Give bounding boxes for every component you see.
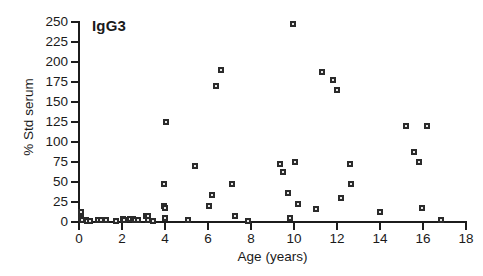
data-point xyxy=(162,215,168,221)
data-point xyxy=(218,67,224,73)
y-tick-label: 75 xyxy=(10,155,68,169)
y-tick-label-wrap: 225 xyxy=(8,35,68,49)
y-tick-label: 175 xyxy=(10,75,68,89)
data-point xyxy=(334,87,340,93)
y-tick xyxy=(71,21,78,23)
data-point xyxy=(150,218,156,224)
chart-figure: IgG3 % Std serum Age (years) 02550751001… xyxy=(0,0,483,276)
x-tick-label: 4 xyxy=(145,232,185,246)
data-point xyxy=(161,181,167,187)
data-point xyxy=(313,206,319,212)
x-tick-label: 8 xyxy=(231,232,271,246)
y-tick-label: 200 xyxy=(10,55,68,69)
data-point xyxy=(192,163,198,169)
x-tick-label: 18 xyxy=(446,232,483,246)
data-point xyxy=(113,218,119,224)
y-tick-label-wrap: 75 xyxy=(8,155,68,169)
y-tick-label-wrap: 100 xyxy=(8,135,68,149)
data-point xyxy=(338,195,344,201)
data-point xyxy=(348,181,354,187)
data-point xyxy=(438,217,444,223)
y-tick xyxy=(71,201,78,203)
y-tick xyxy=(71,41,78,43)
y-tick xyxy=(71,81,78,83)
x-tick xyxy=(78,223,80,230)
y-tick-label-wrap: 0 xyxy=(8,215,68,229)
x-tick xyxy=(164,223,166,230)
data-point xyxy=(285,190,291,196)
data-point xyxy=(78,209,84,215)
x-tick xyxy=(465,223,467,230)
data-point xyxy=(290,21,296,27)
plot-area: 0255075100125150175200225250 02468101214… xyxy=(0,0,483,276)
data-point xyxy=(163,119,169,125)
x-tick xyxy=(293,223,295,230)
y-tick-label: 125 xyxy=(10,115,68,129)
y-tick-label: 225 xyxy=(10,35,68,49)
y-tick-label: 0 xyxy=(10,215,68,229)
data-point xyxy=(185,217,191,223)
y-tick-label: 100 xyxy=(10,135,68,149)
data-point xyxy=(295,201,301,207)
x-tick-label: 10 xyxy=(274,232,314,246)
data-point xyxy=(135,217,141,223)
data-point xyxy=(229,181,235,187)
y-tick-label: 25 xyxy=(10,195,68,209)
y-tick xyxy=(71,161,78,163)
data-point xyxy=(419,205,425,211)
y-tick-label-wrap: 50 xyxy=(8,175,68,189)
x-tick-label: 6 xyxy=(188,232,228,246)
x-tick-label: 2 xyxy=(102,232,142,246)
data-point xyxy=(213,83,219,89)
data-point xyxy=(424,123,430,129)
data-point xyxy=(103,217,109,223)
y-tick-label-wrap: 200 xyxy=(8,55,68,69)
y-tick xyxy=(71,101,78,103)
y-axis-line xyxy=(78,21,80,223)
x-tick xyxy=(379,223,381,230)
y-tick-label-wrap: 250 xyxy=(8,15,68,29)
data-point xyxy=(280,169,286,175)
data-point xyxy=(330,77,336,83)
y-tick xyxy=(71,181,78,183)
data-point xyxy=(277,161,283,167)
y-tick-label-wrap: 175 xyxy=(8,75,68,89)
y-tick-label: 50 xyxy=(10,175,68,189)
data-point xyxy=(87,218,93,224)
y-tick xyxy=(71,221,78,223)
y-tick-label: 150 xyxy=(10,95,68,109)
data-point xyxy=(377,209,383,215)
x-tick-label: 0 xyxy=(59,232,99,246)
x-tick xyxy=(207,223,209,230)
x-tick-label: 12 xyxy=(317,232,357,246)
x-tick xyxy=(121,223,123,230)
y-tick-label-wrap: 125 xyxy=(8,115,68,129)
data-point xyxy=(245,218,251,224)
data-point xyxy=(287,215,293,221)
x-tick-label: 16 xyxy=(403,232,443,246)
data-point xyxy=(319,69,325,75)
data-point xyxy=(403,123,409,129)
x-tick xyxy=(422,223,424,230)
data-point xyxy=(232,213,238,219)
data-point xyxy=(416,159,422,165)
y-tick xyxy=(71,61,78,63)
data-point xyxy=(209,192,215,198)
data-point xyxy=(206,203,212,209)
data-point xyxy=(411,149,417,155)
data-point xyxy=(292,159,298,165)
y-tick xyxy=(71,121,78,123)
y-tick-label-wrap: 150 xyxy=(8,95,68,109)
x-tick-label: 14 xyxy=(360,232,400,246)
data-point xyxy=(162,205,168,211)
y-tick-label-wrap: 25 xyxy=(8,195,68,209)
data-point xyxy=(347,161,353,167)
x-tick xyxy=(336,223,338,230)
y-tick xyxy=(71,141,78,143)
y-tick-label: 250 xyxy=(10,15,68,29)
